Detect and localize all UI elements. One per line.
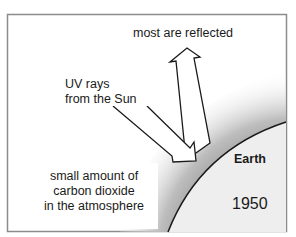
year-label: 1950 [232,196,268,211]
co2-line-3: in the atmosphere [30,199,158,214]
co2-label: small amount of carbon dioxide in the at… [30,169,158,214]
uv-rays-line-2: from the Sun [65,92,137,107]
earth-label: Earth [234,152,266,167]
co2-line-2: carbon dioxide [30,184,158,199]
greenhouse-diagram: most are reflected UV rays from the Sun … [0,0,296,237]
co2-line-1: small amount of [30,169,158,184]
reflected-label: most are reflected [133,26,233,41]
uv-rays-label: UV rays from the Sun [65,77,137,107]
uv-rays-line-1: UV rays [65,77,137,92]
